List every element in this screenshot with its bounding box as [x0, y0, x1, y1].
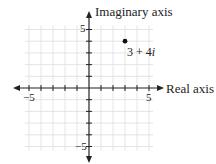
point-label-real: 3	[127, 45, 133, 59]
imaginary-axis-arrow-down-icon	[86, 156, 92, 163]
y-tick-label-5: 5	[80, 23, 86, 34]
y-tick-label-neg5: −5	[75, 141, 87, 152]
axes	[13, 11, 164, 163]
point-label-operator: +	[136, 45, 143, 59]
imaginary-axis-label: Imaginary axis	[95, 5, 173, 18]
real-axis-label: Real axis	[166, 82, 214, 95]
imaginary-axis-arrow-up-icon	[86, 11, 92, 18]
x-tick-label-5: 5	[146, 92, 152, 103]
point-label-imag-unit: i	[152, 45, 155, 59]
x-tick-label-neg5: −5	[23, 92, 35, 103]
real-axis-arrow-right-icon	[157, 85, 164, 91]
point-label: 3 + 4i	[127, 46, 155, 58]
complex-point-3-plus-4i	[123, 39, 128, 44]
real-axis-arrow-left-icon	[13, 85, 20, 91]
